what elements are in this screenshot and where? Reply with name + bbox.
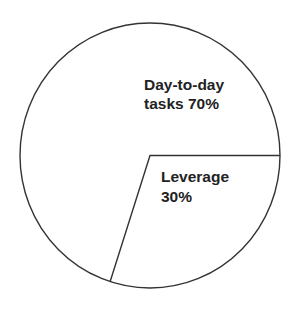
- pie-chart: Day-to-day tasks 70% Leverage 30%: [0, 0, 297, 310]
- slice-label-leverage-line2: 30%: [161, 188, 192, 205]
- slice-label-day-to-day-line2: tasks 70%: [144, 95, 219, 112]
- slice-label-day-to-day-line1: Day-to-day: [144, 76, 224, 93]
- slice-label-leverage-line1: Leverage: [161, 168, 229, 185]
